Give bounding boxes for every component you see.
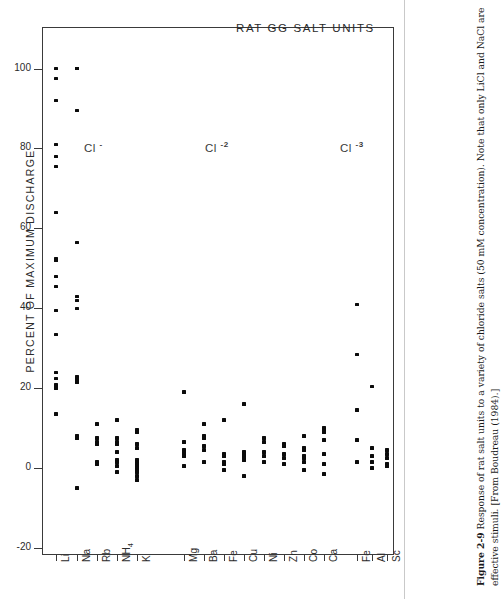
data-point	[135, 430, 138, 433]
data-point	[75, 299, 78, 302]
x-tick-Sc	[387, 555, 388, 561]
data-point	[355, 438, 358, 441]
plot-area	[42, 27, 394, 555]
data-point	[302, 460, 305, 463]
data-point	[54, 412, 57, 415]
x-tick-Rb	[97, 555, 98, 561]
data-point	[54, 275, 57, 278]
data-point	[302, 448, 305, 451]
x-tick-Zn	[284, 555, 285, 561]
data-point	[302, 468, 305, 471]
x-tick-label-K: K	[141, 555, 152, 562]
y-tick-label-100: 100	[0, 62, 31, 73]
x-tick-label-Fe2: Fe	[361, 550, 372, 562]
data-point	[370, 454, 373, 457]
y-tick-60	[34, 228, 43, 229]
data-point	[54, 143, 57, 146]
data-point	[370, 446, 373, 449]
chart-title: RAT GG SALT UNITS	[236, 22, 375, 34]
data-point	[54, 371, 57, 374]
y-tick-100	[34, 69, 43, 70]
data-point	[115, 460, 118, 463]
x-tick-Fe	[224, 555, 225, 561]
x-tick-label-NH4: NH4	[121, 543, 135, 562]
group-label-minus: Cl -	[84, 140, 103, 154]
data-point	[322, 438, 325, 441]
x-tick-Ca	[324, 555, 325, 561]
group-label-minus2: Cl -2	[205, 140, 229, 154]
y-tick-label-60: 60	[0, 221, 31, 232]
x-tick-label-Li: Li	[60, 554, 71, 562]
data-point	[370, 385, 373, 388]
data-point	[135, 478, 138, 481]
data-point	[135, 446, 138, 449]
data-point	[95, 422, 98, 425]
caption-container: Figure 2-9 Response of rat salt units to…	[398, 0, 487, 599]
data-point	[222, 468, 225, 471]
data-point	[54, 309, 57, 312]
y-tick-label--20: -20	[0, 541, 31, 552]
data-point	[385, 452, 388, 455]
data-point	[54, 67, 57, 70]
data-point	[75, 241, 78, 244]
data-point	[282, 462, 285, 465]
y-tick-80	[34, 148, 43, 149]
data-point	[75, 381, 78, 384]
x-tick-label-Fe: Fe	[228, 550, 239, 562]
data-point	[54, 211, 57, 214]
data-point	[282, 452, 285, 455]
y-tick-label-40: 40	[0, 301, 31, 312]
data-point	[54, 99, 57, 102]
data-point	[115, 464, 118, 467]
data-point	[182, 464, 185, 467]
data-point	[75, 486, 78, 489]
data-point	[385, 464, 388, 467]
x-tick-K	[137, 555, 138, 561]
data-point	[95, 442, 98, 445]
data-point	[370, 466, 373, 469]
data-point	[242, 474, 245, 477]
x-tick-label-Co: Co	[308, 549, 319, 562]
x-tick-Cu	[244, 555, 245, 561]
data-point	[182, 440, 185, 443]
data-point	[385, 448, 388, 451]
x-tick-Na	[77, 555, 78, 561]
y-tick-0	[34, 468, 43, 469]
x-tick-Ni	[264, 555, 265, 561]
data-point	[115, 418, 118, 421]
data-point	[54, 387, 57, 390]
data-point	[322, 462, 325, 465]
y-tick-label-0: 0	[0, 461, 31, 472]
data-point	[95, 436, 98, 439]
data-point	[355, 353, 358, 356]
data-point	[95, 462, 98, 465]
data-point	[75, 109, 78, 112]
data-point	[54, 77, 57, 80]
data-point	[54, 259, 57, 262]
data-point	[202, 448, 205, 451]
data-point	[115, 442, 118, 445]
x-tick-label-Ba: Ba	[208, 549, 219, 562]
data-point	[322, 472, 325, 475]
x-tick-label-Ca: Ca	[328, 549, 339, 562]
data-point	[202, 444, 205, 447]
data-point	[322, 430, 325, 433]
caption-text: Response of rat salt units to a variety …	[475, 8, 500, 586]
data-point	[262, 436, 265, 439]
data-point	[202, 460, 205, 463]
data-point	[54, 333, 57, 336]
data-point	[135, 474, 138, 477]
x-tick-label-Al: Al	[376, 553, 387, 562]
data-point	[75, 436, 78, 439]
data-point	[75, 295, 78, 298]
data-point	[355, 303, 358, 306]
data-point	[222, 454, 225, 457]
data-point	[222, 462, 225, 465]
data-point	[322, 452, 325, 455]
data-point	[370, 460, 373, 463]
y-axis-label: PERCENT OF MAXIMUM DISCHARGE	[24, 111, 36, 411]
x-tick-label-Cu: Cu	[248, 549, 259, 562]
x-tick-Fe2	[357, 555, 358, 561]
data-point	[75, 307, 78, 310]
